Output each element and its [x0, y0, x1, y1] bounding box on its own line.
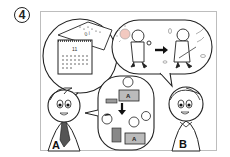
character-a: A: [48, 88, 80, 151]
character-a-label: A: [52, 139, 60, 151]
comic-illustration: 0 / 11: [0, 0, 230, 157]
calendar-icon: 11: [58, 40, 92, 74]
svg-text:A: A: [132, 136, 137, 142]
svg-text:A: A: [126, 93, 131, 99]
character-b: B: [169, 87, 203, 151]
svg-text:11: 11: [72, 46, 77, 52]
character-b-label: B: [179, 138, 187, 150]
